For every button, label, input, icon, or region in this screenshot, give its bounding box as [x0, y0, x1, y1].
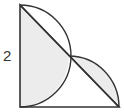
- geometry-figure: [0, 0, 124, 112]
- shaded-left-region: [20, 5, 69, 107]
- side-length-label: 2: [3, 48, 11, 63]
